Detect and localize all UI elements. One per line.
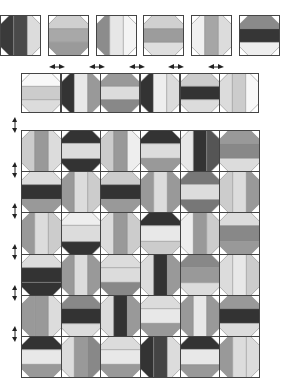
grid-block: [61, 171, 101, 213]
grid-block: [219, 212, 260, 255]
quilt-block: [143, 15, 184, 56]
grid-block: [21, 336, 62, 378]
quilt-block: [48, 15, 89, 56]
grid-block: [140, 130, 181, 172]
grid-block: [140, 254, 181, 296]
double-arrow-icon: [12, 162, 18, 178]
strip-block: [219, 73, 259, 113]
grid-block: [219, 171, 260, 213]
grid-block: [21, 130, 62, 172]
quilt-block: [96, 15, 137, 56]
double-arrow-icon: [12, 117, 18, 133]
grid-block: [140, 295, 181, 337]
grid-block: [61, 295, 101, 337]
grid-block: [100, 336, 141, 378]
grid-block: [180, 212, 220, 255]
grid-block: [180, 295, 220, 337]
double-arrow-icon: [12, 285, 18, 301]
grid-block: [180, 254, 220, 296]
grid-block: [100, 212, 141, 255]
grid-block: [21, 254, 62, 296]
grid-block: [21, 171, 62, 213]
double-arrow-icon: [208, 63, 224, 69]
grid-block: [219, 254, 260, 296]
double-arrow-icon: [12, 244, 18, 260]
grid-block: [219, 336, 260, 378]
grid-block: [140, 336, 181, 378]
double-arrow-icon: [168, 63, 184, 69]
grid-block: [61, 130, 101, 172]
strip-block: [140, 73, 180, 113]
grid-block: [140, 171, 181, 213]
quilt-block: [0, 15, 41, 56]
double-arrow-icon: [129, 63, 145, 69]
grid-block: [180, 171, 220, 213]
double-arrow-icon: [12, 203, 18, 219]
grid-block: [61, 254, 101, 296]
grid-block: [61, 212, 101, 255]
grid-block: [21, 295, 62, 337]
grid-block: [61, 336, 101, 378]
strip-block: [180, 73, 220, 113]
grid-block: [100, 130, 141, 172]
strip-block: [21, 73, 61, 113]
grid-block: [219, 295, 260, 337]
grid-block: [21, 212, 62, 255]
strip-block: [100, 73, 140, 113]
quilt-block: [191, 15, 232, 56]
grid-block: [140, 212, 181, 255]
grid-block: [180, 130, 220, 172]
grid-block: [100, 254, 141, 296]
grid-block: [100, 295, 141, 337]
grid-block: [219, 130, 260, 172]
double-arrow-icon: [12, 326, 18, 342]
grid-block: [100, 171, 141, 213]
double-arrow-icon: [89, 63, 105, 69]
double-arrow-icon: [49, 63, 65, 69]
grid-block: [180, 336, 220, 378]
strip-block: [61, 73, 101, 113]
quilt-block: [239, 15, 280, 56]
